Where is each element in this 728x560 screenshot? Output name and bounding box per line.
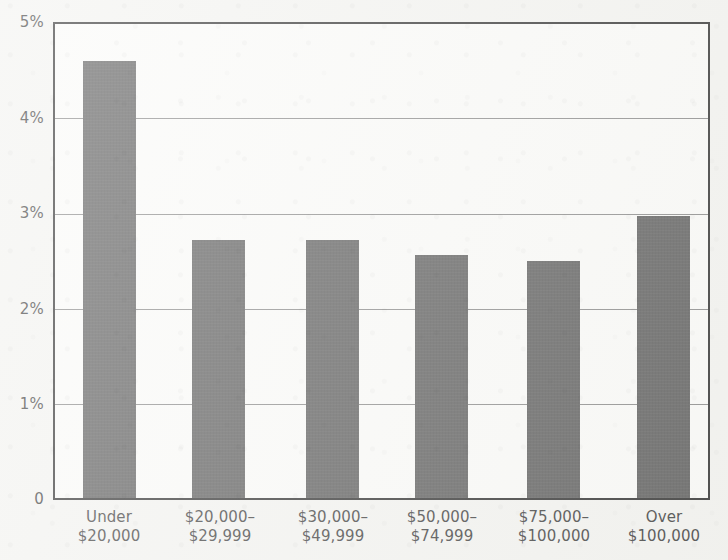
plot-area bbox=[53, 22, 710, 500]
x-axis-tick-label-50000-74999: $50,000– $74,999 bbox=[388, 508, 496, 546]
y-axis-tick-label-1: 1% bbox=[0, 397, 44, 412]
y-axis-tick-label-3: 3% bbox=[0, 206, 44, 221]
x-label-line2: $49,999 bbox=[279, 527, 387, 546]
bar-20000-29999 bbox=[192, 240, 245, 498]
bar-50000-74999 bbox=[415, 255, 468, 498]
x-label-line1: Under bbox=[86, 508, 132, 526]
y-axis-tick-label-0: 0 bbox=[0, 492, 44, 507]
x-label-line2: $100,000 bbox=[608, 527, 720, 546]
gridline-3-percent bbox=[55, 214, 708, 215]
x-axis-tick-label-under-20000: Under $20,000 bbox=[55, 508, 163, 546]
x-axis-tick-label-20000-29999: $20,000– $29,999 bbox=[166, 508, 274, 546]
x-label-line1: $75,000– bbox=[519, 508, 589, 526]
x-label-line2: $20,000 bbox=[55, 527, 163, 546]
bar-chart: 5% 4% 3% 2% 1% 0 Under $20,000 $20,000– … bbox=[0, 0, 728, 560]
x-label-line1: $30,000– bbox=[298, 508, 368, 526]
x-label-line2: $100,000 bbox=[498, 527, 610, 546]
gridline-4-percent bbox=[55, 118, 708, 119]
y-axis-tick-label-2: 2% bbox=[0, 302, 44, 317]
x-label-line1: $50,000– bbox=[407, 508, 477, 526]
x-label-line1: $20,000– bbox=[185, 508, 255, 526]
y-axis-tick-label-4: 4% bbox=[0, 111, 44, 126]
x-label-line2: $29,999 bbox=[166, 527, 274, 546]
x-axis-tick-label-over-100000: Over $100,000 bbox=[608, 508, 720, 546]
gridline-1-percent bbox=[55, 404, 708, 405]
bar-under-20000 bbox=[83, 61, 136, 498]
y-axis-tick-label-5: 5% bbox=[0, 15, 44, 30]
gridline-2-percent bbox=[55, 309, 708, 310]
bar-75000-100000 bbox=[527, 261, 580, 498]
x-axis-tick-label-30000-49999: $30,000– $49,999 bbox=[279, 508, 387, 546]
bar-over-100000 bbox=[637, 216, 690, 498]
x-axis-tick-label-75000-100000: $75,000– $100,000 bbox=[498, 508, 610, 546]
bar-30000-49999 bbox=[306, 240, 359, 498]
x-label-line1: Over bbox=[646, 508, 682, 526]
x-label-line2: $74,999 bbox=[388, 527, 496, 546]
